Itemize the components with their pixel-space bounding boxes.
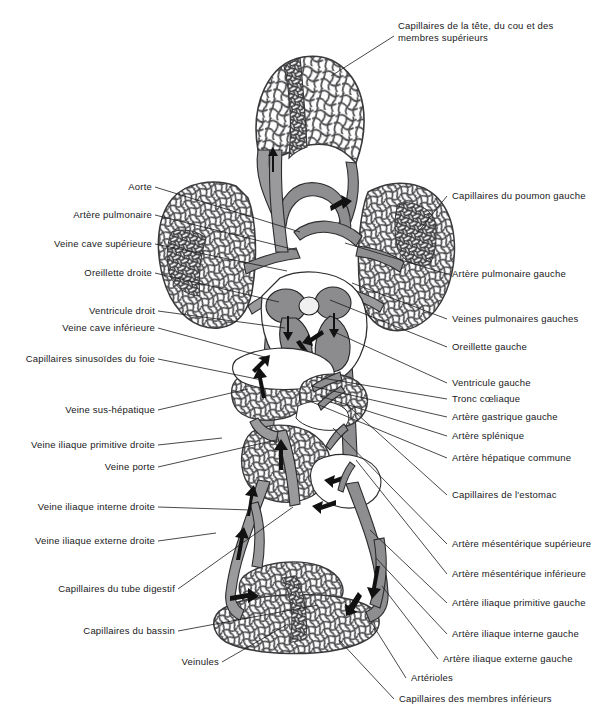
- label-artere-hepatique-commune: Artère hépatique commune: [452, 452, 571, 464]
- label-veine-porte: Veine porte: [105, 461, 155, 473]
- label-veines-pulmonaires-g: Veines pulmonaires gauches: [452, 313, 578, 325]
- label-tronc-coeliaque: Tronc cœliaque: [452, 393, 520, 405]
- label-artere-iliaque-ext-g: Artère iliaque externe gauche: [443, 653, 573, 665]
- label-veine-sus-hepatique: Veine sus-hépatique: [65, 404, 155, 416]
- label-capillaires-tete-cou: Capillaires de la tête, du cou et desmem…: [398, 20, 588, 43]
- label-capillaires-bassin: Capillaires du bassin: [83, 625, 175, 637]
- label-ventricule-gauche: Ventricule gauche: [452, 377, 531, 389]
- label-aorte: Aorte: [128, 181, 152, 193]
- label-veine-cave-superieure: Veine cave supérieure: [54, 238, 152, 250]
- label-veine-iliaque-prim-droite: Veine iliaque primitive droite: [31, 439, 155, 451]
- label-capillaires-poumon-gauche: Capillaires du poumon gauche: [452, 190, 586, 202]
- label-line-2: membres supérieurs: [398, 32, 488, 43]
- figure-canvas: AorteArtère pulmonaireVeine cave supérie…: [0, 0, 603, 726]
- label-veine-cave-inferieure: Veine cave inférieure: [62, 322, 155, 334]
- label-oreillette-droite: Oreillette droite: [84, 267, 152, 279]
- label-line-1: Capillaires de la tête, du cou et des: [398, 20, 553, 31]
- label-capillaires-tube-digestif: Capillaires du tube digestif: [58, 583, 175, 595]
- label-artere-mesenterique-inf: Artère mésentérique inférieure: [452, 568, 586, 580]
- label-artere-splenique: Artère splénique: [452, 430, 524, 442]
- label-veinules: Veinules: [182, 656, 219, 668]
- label-veine-iliaque-ext-droite: Veine iliaque externe droite: [35, 535, 155, 547]
- label-ventricule-droit: Ventricule droit: [89, 305, 155, 317]
- label-artere-mesenterique-sup: Artère mésentérique supérieure: [452, 538, 591, 550]
- label-artere-pulmonaire: Artère pulmonaire: [73, 209, 152, 221]
- capillary-bed-right-lung: [158, 182, 255, 328]
- label-capillaires-membres-inf: Capillaires des membres inférieurs: [399, 693, 552, 705]
- label-artere-pulmonaire-gauche: Artère pulmonaire gauche: [452, 268, 566, 280]
- label-veine-iliaque-int-droite: Veine iliaque interne droite: [38, 501, 155, 513]
- label-capillaires-estomac: Capillaires de l'estomac: [452, 489, 557, 501]
- label-arterioles: Artérioles: [411, 672, 453, 684]
- label-artere-gastrique-gauche: Artère gastrique gauche: [452, 411, 558, 423]
- label-capillaires-sinusoides: Capillaires sinusoïdes du foie: [26, 353, 155, 365]
- label-oreillette-gauche: Oreillette gauche: [452, 341, 527, 353]
- label-artere-iliaque-prim-g: Artère iliaque primitive gauche: [452, 597, 586, 609]
- label-artere-iliaque-int-g: Artère iliaque interne gauche: [452, 628, 579, 640]
